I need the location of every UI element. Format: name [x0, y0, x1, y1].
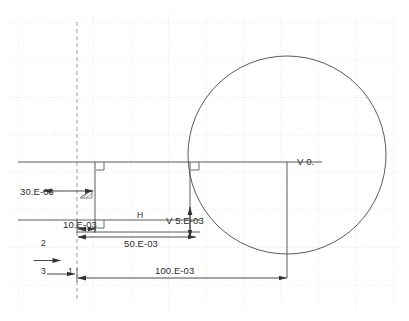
cad-drawing-canvas[interactable]: 30.E-03 10.E-03 50.E-03 100.E-03 V 5.E-0…	[0, 0, 409, 321]
annotation-label-v0: V 0.	[297, 156, 314, 167]
annotation-label-h: H	[137, 210, 143, 220]
dimension-label-v5: V 5.E-03	[166, 215, 204, 226]
axis-label-origin: 3	[41, 266, 46, 276]
dimension-label-30: 30.E-03	[20, 186, 54, 197]
dimension-label-50: 50.E-03	[124, 238, 158, 249]
dimension-label-100: 100.E-03	[155, 265, 194, 276]
dimension-label-10: 10.E-03	[63, 219, 97, 230]
drawing-svg	[0, 0, 409, 321]
axis-label-horizontal: 1	[68, 266, 73, 276]
background-grid	[8, 12, 401, 310]
axis-label-vertical: 2	[41, 238, 46, 248]
